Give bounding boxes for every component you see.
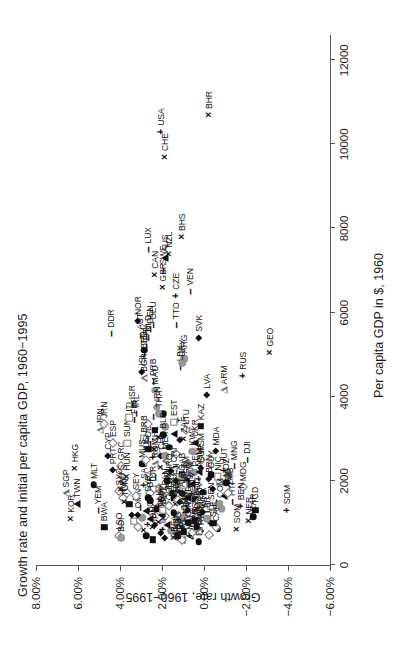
point-marker-cir-f bbox=[214, 526, 221, 533]
scatter-point: × bbox=[177, 234, 187, 240]
scatter-point: × bbox=[66, 516, 76, 522]
point-marker-plus: + bbox=[238, 373, 248, 379]
point-label: TTO bbox=[171, 303, 181, 320]
point-label: CZE bbox=[171, 273, 181, 290]
scatter-point bbox=[195, 539, 202, 546]
point-marker-dia-o bbox=[204, 530, 214, 540]
scatter-point: × bbox=[160, 154, 170, 160]
point-marker-tri-f bbox=[178, 536, 185, 544]
scatter-point: × bbox=[148, 524, 158, 530]
point-marker-cross: × bbox=[169, 535, 179, 541]
point-label: JRN bbox=[99, 402, 109, 418]
point-label: IRL bbox=[131, 395, 141, 408]
point-marker-dash: – bbox=[149, 414, 157, 421]
point-label: BHR bbox=[204, 91, 214, 109]
scatter-point bbox=[178, 536, 185, 544]
scatter-point bbox=[207, 476, 212, 481]
point-marker-dia-f bbox=[157, 530, 165, 538]
point-label: MYS bbox=[116, 465, 126, 483]
point-marker-dia-f bbox=[134, 511, 142, 519]
point-label: MAU bbox=[150, 366, 160, 385]
point-marker-dia-f bbox=[205, 475, 213, 483]
point-marker-plus: + bbox=[143, 521, 153, 527]
scatter-point bbox=[170, 418, 177, 425]
y-tick-label: 8.00% bbox=[30, 577, 42, 610]
scatter-point bbox=[170, 430, 177, 438]
scatter-point: + bbox=[282, 507, 292, 513]
scatter-point: + bbox=[175, 537, 185, 543]
scatter-point: – bbox=[149, 414, 157, 421]
point-label: LUX bbox=[143, 227, 153, 243]
point-marker-cross: × bbox=[204, 112, 214, 118]
point-label: UKR bbox=[190, 419, 200, 437]
point-label: ALB bbox=[177, 472, 187, 488]
point-marker-cross: × bbox=[177, 234, 187, 240]
point-label: THA bbox=[154, 391, 164, 408]
point-label: ZAF bbox=[179, 417, 189, 433]
point-label: SVK bbox=[194, 315, 204, 332]
scatter-point bbox=[162, 535, 167, 540]
scatter-point: × bbox=[120, 499, 130, 505]
point-label: IRQ bbox=[164, 454, 174, 469]
point-marker-plus: + bbox=[175, 537, 185, 543]
point-label: YUG bbox=[141, 436, 151, 454]
point-marker-cir-o bbox=[138, 514, 146, 522]
point-marker-sq-f bbox=[149, 537, 155, 543]
point-marker-sq-o bbox=[170, 418, 177, 425]
y-tick-mark bbox=[36, 566, 37, 571]
point-label: SOM bbox=[232, 504, 242, 523]
scatter-point bbox=[220, 386, 227, 394]
point-label: BEN bbox=[236, 483, 246, 500]
point-marker-sq-o bbox=[130, 518, 137, 525]
point-label: LVA bbox=[202, 374, 212, 389]
point-marker-dia-f bbox=[203, 391, 211, 399]
point-label: SUN bbox=[122, 419, 132, 437]
scatter-point bbox=[134, 524, 141, 531]
point-label: MNG bbox=[229, 440, 239, 460]
point-marker-dia-o bbox=[211, 522, 221, 532]
point-marker-cross: × bbox=[66, 516, 76, 522]
x-tick-label: 8000 bbox=[338, 216, 350, 242]
point-marker-dash: – bbox=[176, 364, 184, 371]
scatter-point: × bbox=[244, 518, 254, 524]
point-label: BGD bbox=[173, 511, 183, 529]
x-axis-label: Per capita GDP in $, 1960 bbox=[372, 0, 386, 651]
scatter-point bbox=[135, 512, 140, 517]
scatter-point bbox=[101, 524, 107, 530]
x-tick-label: 2000 bbox=[338, 468, 350, 494]
x-tick-mark bbox=[330, 143, 335, 144]
point-label: TWN bbox=[72, 479, 82, 498]
point-marker-cross: × bbox=[148, 524, 158, 530]
point-marker-dia-o bbox=[114, 531, 124, 541]
point-label: SUR bbox=[196, 444, 206, 462]
scatter-point bbox=[177, 438, 182, 443]
point-marker-cir-f bbox=[195, 539, 202, 546]
scatter-point: – bbox=[107, 330, 115, 337]
x-tick-label: 4000 bbox=[338, 384, 350, 410]
point-marker-dia-o bbox=[177, 535, 187, 545]
scatter-point: × bbox=[204, 112, 214, 118]
point-marker-plus: + bbox=[282, 507, 292, 513]
point-label: ESP bbox=[108, 420, 118, 437]
y-axis-line bbox=[36, 565, 331, 566]
scatter-point bbox=[126, 501, 132, 507]
point-label: GMB bbox=[194, 506, 204, 525]
x-tick-label: 12000 bbox=[338, 44, 350, 76]
point-marker-dash: – bbox=[107, 330, 115, 337]
point-label: CHE bbox=[160, 133, 170, 151]
point-marker-dia-f bbox=[161, 534, 169, 542]
scatter-point bbox=[204, 392, 209, 397]
point-marker-cross: × bbox=[265, 350, 275, 356]
point-marker-cross: × bbox=[139, 527, 149, 533]
point-label: MRT bbox=[196, 490, 206, 508]
scatter-point bbox=[214, 526, 221, 533]
scatter-point: + bbox=[143, 521, 153, 527]
point-label: SGP bbox=[61, 470, 71, 488]
point-marker-tri-f bbox=[170, 430, 177, 438]
scatter-point: + bbox=[171, 293, 181, 299]
scatter-point bbox=[212, 524, 219, 531]
point-label: SEY bbox=[131, 473, 141, 490]
x-axis-line bbox=[330, 35, 331, 566]
point-label: AGO bbox=[223, 469, 233, 488]
point-label: OMN bbox=[133, 489, 143, 509]
